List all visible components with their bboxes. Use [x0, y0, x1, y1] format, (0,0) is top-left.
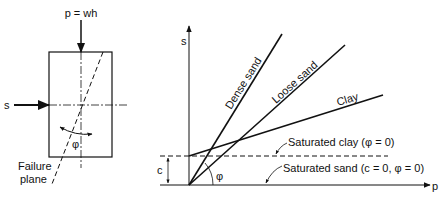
friction-angle-label: φ	[216, 170, 223, 182]
saturated-sand-annotation: Saturated sand (c = 0, φ = 0)	[283, 162, 424, 174]
failure-plane-label-line2: plane	[20, 173, 47, 185]
y-axis-label: s	[181, 35, 187, 47]
saturated-clay-annotation: Saturated clay (φ = 0)	[288, 136, 395, 148]
angle-phi-label: φ	[72, 138, 79, 150]
dense-sand-label: Dense sand	[223, 55, 264, 111]
shear-force-label: s	[4, 99, 10, 111]
cohesion-label: c	[157, 164, 163, 176]
loose-sand-label: Loose sand	[269, 59, 319, 106]
saturated-clay-leader	[276, 143, 287, 154]
strength-envelope-graph: s p c Dense sand Loose sand Clay φ Satur…	[157, 26, 438, 192]
angle-arc	[60, 127, 92, 134]
failure-plane-line	[52, 52, 103, 184]
shear-strength-figure: p = wh s φ Failure plane s p c Dense san…	[0, 0, 443, 203]
x-axis-label: p	[432, 180, 438, 192]
clay-label: Clay	[335, 90, 360, 108]
dense-sand-line	[189, 34, 282, 185]
soil-element-box	[49, 52, 112, 157]
failure-plane-label-line1: Failure	[18, 160, 52, 172]
soil-element-diagram: p = wh s φ Failure plane	[4, 7, 128, 185]
normal-load-label: p = wh	[65, 7, 98, 19]
saturated-sand-leader	[266, 166, 282, 183]
